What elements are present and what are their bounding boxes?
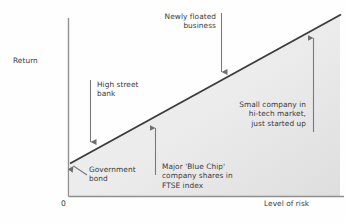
x-axis-label: Level of risk: [264, 199, 309, 208]
annotation-blue-chip: Major 'Blue Chip' company shares in FTSE…: [162, 162, 233, 190]
annotation-small-company: Small company in hi-tech market, just st…: [212, 100, 306, 128]
annotation-newly-floated-business: Newly floated business: [133, 12, 216, 31]
annotation-government-bond: Government bond: [89, 165, 136, 184]
risk-return-chart: Return Level of risk 0 High street bank …: [0, 0, 345, 223]
y-axis-label: Return: [13, 56, 38, 65]
annotation-high-street-bank: High street bank: [97, 80, 139, 99]
origin-label: 0: [61, 199, 66, 208]
